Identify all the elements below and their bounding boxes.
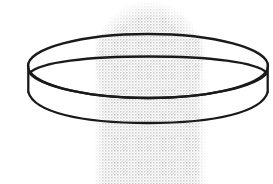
halftone-dome <box>80 0 220 130</box>
figure-canvas: Shallow cylindrical ring drawing over ha… <box>0 0 273 184</box>
line-drawing-illustration <box>0 0 273 184</box>
